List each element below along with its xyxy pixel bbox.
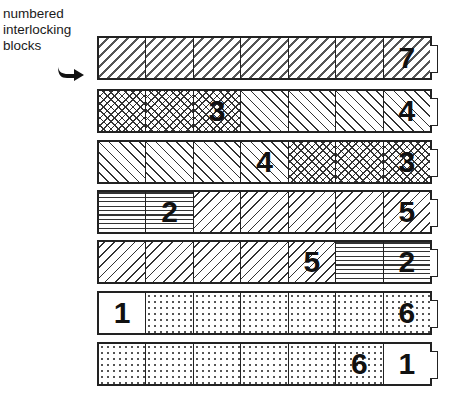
block-number: 1 [114,298,131,328]
block-cell-dots [289,293,336,333]
block-cell-blank: 1 [384,344,430,384]
block-row-4: 25 [97,190,432,234]
block-cell-back [194,142,241,182]
block-cell-fwd [241,192,288,232]
block-cell-fwd [194,242,241,282]
block-cell-back [241,91,288,131]
block-cell-dots: 6 [384,293,430,333]
block-cell-fwd [146,242,193,282]
block-row-5: 52 [97,240,432,284]
block-number: 3 [209,96,226,126]
block-cell-horiz: 2 [384,242,430,282]
block-cell-back [146,142,193,182]
block-row-3: 43 [97,140,432,184]
block-cell-horiz [99,192,146,232]
block-cell-cross [289,142,336,182]
caption-line-2: interlocking [3,22,71,38]
block-cell-back [289,91,336,131]
interlock-tab [430,300,438,328]
block-cell-fwd [241,242,288,282]
block-cell-dots [241,293,288,333]
caption-line-3: blocks [3,38,71,54]
block-cell-back [99,142,146,182]
block-cell-cross [146,91,193,131]
interlock-tab [430,45,438,73]
block-bar: 61 [97,342,432,386]
block-cell-fwd: 5 [289,242,336,282]
block-cell-dots [289,344,336,384]
block-row-6: 16 [97,291,432,335]
block-cell-dash [241,38,288,78]
block-number: 2 [161,197,178,227]
block-cell-fwd [289,192,336,232]
interlock-tab [430,149,438,177]
block-cell-dash: 7 [384,38,430,78]
block-cell-dash [289,38,336,78]
block-cell-cross [99,91,146,131]
block-cell-dots [146,293,193,333]
block-cell-dots [146,344,193,384]
block-bar: 43 [97,140,432,184]
interlock-tab [430,351,438,379]
caption-line-1: numbered [3,6,71,22]
block-bar: 16 [97,291,432,335]
block-number: 7 [398,43,415,73]
interlock-tab [430,199,438,227]
block-cell-back [336,91,383,131]
block-cell-blank: 1 [99,293,146,333]
block-cell-dots [194,293,241,333]
caption-label: numbered interlocking blocks [3,6,71,54]
block-number: 2 [398,247,415,277]
block-number: 5 [398,197,415,227]
interlock-tab [430,98,438,126]
block-cell-fwd [336,192,383,232]
block-cell-horiz: 2 [146,192,193,232]
curved-arrow-right-icon [56,63,86,83]
block-cell-dash [194,38,241,78]
block-bar: 7 [97,36,432,80]
block-number: 4 [256,147,273,177]
block-number: 6 [351,349,368,379]
block-number: 5 [304,247,321,277]
block-row-7: 61 [97,342,432,386]
block-bar: 25 [97,190,432,234]
block-cell-cross: 3 [194,91,241,131]
block-cell-fwd [99,242,146,282]
block-cell-cross [336,142,383,182]
block-cell-fwd [194,192,241,232]
interlock-tab [430,249,438,277]
block-number: 1 [398,349,415,379]
block-bar: 34 [97,89,432,133]
block-number: 4 [398,96,415,126]
block-row-1: 7 [97,36,432,80]
block-cell-fwd: 5 [384,192,430,232]
block-cell-dots [336,293,383,333]
block-number: 3 [398,147,415,177]
block-cell-horiz [336,242,383,282]
block-cell-dash [99,38,146,78]
block-cell-dots [194,344,241,384]
block-number: 6 [398,298,415,328]
block-cell-dots [99,344,146,384]
block-cell-dots [241,344,288,384]
block-cell-dash [336,38,383,78]
block-cell-dash [146,38,193,78]
block-row-2: 34 [97,89,432,133]
block-cell-dots: 6 [336,344,383,384]
block-bar: 52 [97,240,432,284]
block-cell-back: 4 [384,91,430,131]
block-cell-cross: 3 [384,142,430,182]
block-cell-back: 4 [241,142,288,182]
